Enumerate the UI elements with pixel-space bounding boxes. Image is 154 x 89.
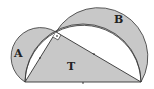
right-angle-dot — [56, 35, 58, 37]
label-t: T — [67, 60, 76, 73]
midpoint-left-leg — [39, 57, 40, 58]
midpoint-base — [82, 82, 83, 83]
lunes-diagram: A B T — [0, 0, 154, 89]
label-a: A — [13, 47, 23, 60]
label-b: B — [114, 13, 123, 26]
midpoint-hypotenuse — [93, 53, 94, 54]
